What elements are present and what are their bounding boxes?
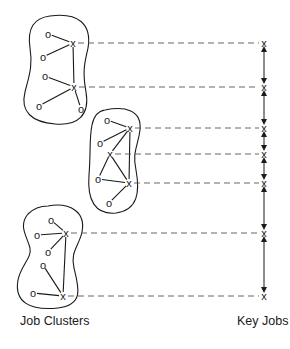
key-job-marker: x — [261, 227, 267, 239]
key-job-scale: xxxxxxx — [261, 37, 267, 302]
job-node: o — [36, 100, 42, 112]
job-clusters-label: Job Clusters — [20, 314, 89, 328]
job-node: o — [42, 70, 48, 82]
key-job-node: x — [107, 148, 113, 160]
job-node: o — [48, 214, 54, 226]
job-node: o — [78, 103, 84, 115]
job-node: o — [45, 28, 51, 40]
job-node: o — [97, 137, 103, 149]
key-job-node: x — [60, 290, 66, 302]
key-job-marker: x — [261, 37, 267, 49]
key-job-node: x — [70, 37, 76, 49]
job-node: o — [104, 114, 110, 126]
job-node: o — [30, 287, 36, 299]
job-node: o — [45, 246, 51, 258]
job-node: o — [95, 173, 101, 185]
key-job-marker: x — [261, 81, 267, 93]
job-node: o — [40, 51, 46, 63]
job-node: o — [40, 259, 46, 271]
job-node: o — [106, 197, 112, 209]
key-job-node: x — [63, 227, 69, 239]
key-job-marker: x — [261, 177, 267, 189]
key-jobs-label: Key Jobs — [237, 314, 288, 328]
key-job-marker: x — [261, 148, 267, 160]
job-cluster-diagram: xxxxxxx xxoooooxxxooooxxooooo — [0, 0, 290, 349]
key-job-node: x — [71, 81, 77, 93]
job-node: o — [34, 229, 40, 241]
key-job-node: x — [127, 122, 133, 134]
key-job-node: x — [126, 177, 132, 189]
key-job-marker: x — [261, 122, 267, 134]
key-job-marker: x — [261, 290, 267, 302]
key-job-leader-lines — [68, 43, 259, 296]
